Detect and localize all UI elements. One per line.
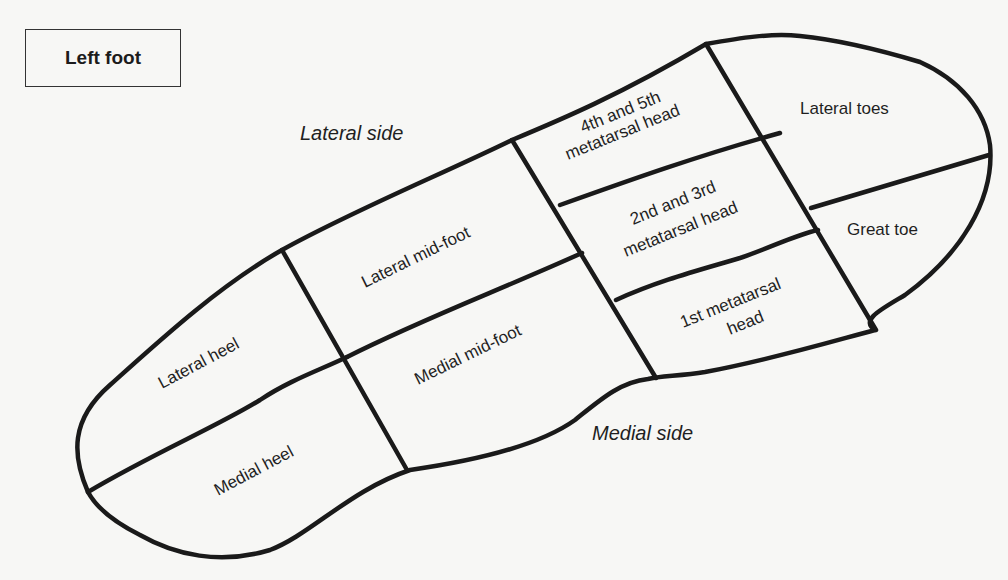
region-lateral-mid-foot: Lateral mid-foot xyxy=(358,223,473,292)
region-lateral-toes: Lateral toes xyxy=(800,99,889,118)
divider-metatarsal-toes xyxy=(706,44,876,330)
divider-toes xyxy=(811,155,989,208)
medial-side-label: Medial side xyxy=(592,422,693,444)
divider-midfoot-metatarsal xyxy=(512,140,656,378)
divider-heel-lateral-medial xyxy=(88,357,347,492)
region-medial-heel: Medial heel xyxy=(211,442,297,500)
region-great-toe: Great toe xyxy=(847,220,918,239)
region-medial-mid-foot: Medial mid-foot xyxy=(411,320,524,388)
region-lateral-heel: Lateral heel xyxy=(155,334,242,392)
foot-diagram: Lateral side Medial side Lateral heel Me… xyxy=(0,0,1008,580)
lateral-side-label: Lateral side xyxy=(300,122,403,144)
